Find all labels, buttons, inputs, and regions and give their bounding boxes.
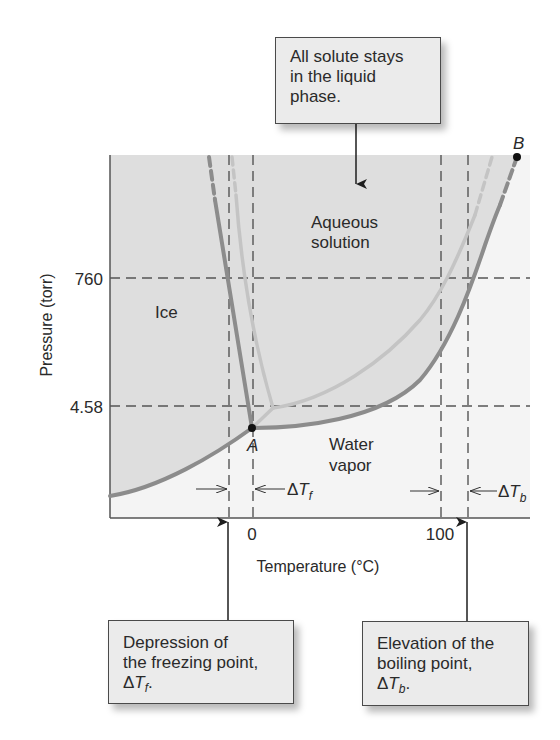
callout-right-line-2: boiling point, bbox=[377, 654, 514, 674]
callout-top-line-1: All solute stays bbox=[290, 47, 426, 67]
point-b-label: B bbox=[513, 134, 524, 153]
region-ice-label: Ice bbox=[155, 303, 178, 322]
point-b bbox=[513, 153, 521, 161]
callout-left-symbol-line: ΔTf. bbox=[123, 673, 279, 693]
callout-solute-stays: All solute stays in the liquid phase. bbox=[275, 37, 441, 124]
callout-left-end: . bbox=[148, 673, 153, 692]
y-tick-458: 4.58 bbox=[70, 398, 103, 417]
x-tick-100: 100 bbox=[426, 525, 454, 544]
x-axis-title: Temperature (°C) bbox=[257, 558, 380, 575]
x-tick-0: 0 bbox=[247, 525, 256, 544]
callout-right-symbol-line: ΔTb. bbox=[377, 674, 514, 694]
point-a bbox=[248, 424, 256, 432]
region-aqueous-label-2: solution bbox=[311, 233, 370, 252]
region-vapor-label-1: Water bbox=[329, 435, 374, 454]
delta-tb-delta: Δ bbox=[498, 482, 509, 501]
callout-boiling-elevation: Elevation of the boiling point, ΔTb. bbox=[362, 621, 529, 706]
callout-right-line-1: Elevation of the bbox=[377, 634, 514, 654]
y-tick-760: 760 bbox=[75, 270, 103, 289]
callout-top-line-3: phase. bbox=[290, 87, 426, 107]
point-a-label: A bbox=[246, 436, 258, 455]
callout-left-delta: Δ bbox=[123, 673, 134, 692]
delta-tf-delta: Δ bbox=[287, 480, 298, 499]
callout-freezing-depression: Depression of the freezing point, ΔTf. bbox=[108, 620, 294, 704]
callout-left-t: T bbox=[134, 673, 144, 692]
callout-right-t: T bbox=[388, 674, 398, 693]
y-axis-title: Pressure (torr) bbox=[38, 273, 55, 376]
region-aqueous-label-1: Aqueous bbox=[311, 213, 378, 232]
region-vapor-label-2: vapor bbox=[329, 456, 372, 475]
callout-right-delta: Δ bbox=[377, 674, 388, 693]
callout-left-line-2: the freezing point, bbox=[123, 653, 279, 673]
callout-right-end: . bbox=[405, 674, 410, 693]
callout-left-line-1: Depression of bbox=[123, 633, 279, 653]
delta-tb-sub: b bbox=[520, 491, 527, 505]
callout-top-line-2: in the liquid bbox=[290, 67, 426, 87]
